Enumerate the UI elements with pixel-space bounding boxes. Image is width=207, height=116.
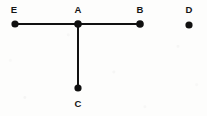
geometry-figure-canvas: E A B D C xyxy=(0,0,207,116)
point-b-dot xyxy=(136,20,144,28)
figure-svg: E A B D C xyxy=(0,0,207,116)
vertex-group xyxy=(11,20,192,91)
vertex-label-group: E A B D C xyxy=(11,4,193,109)
point-c-dot xyxy=(74,84,81,91)
point-d-label: D xyxy=(186,4,193,15)
point-d-dot xyxy=(185,21,192,28)
point-e-dot xyxy=(11,20,18,27)
point-e-label: E xyxy=(11,4,17,15)
point-b-label: B xyxy=(137,4,144,15)
point-a-label: A xyxy=(75,4,82,15)
point-a-dot xyxy=(74,20,82,28)
segment-group xyxy=(15,24,140,88)
point-c-label: C xyxy=(75,98,82,109)
